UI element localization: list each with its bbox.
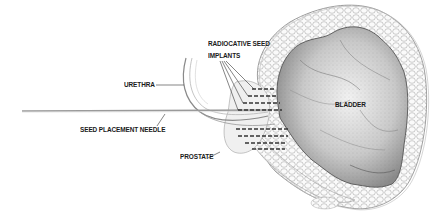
- label-radioactive-seed: RADIOCATIVE SEED: [208, 40, 270, 48]
- diagram-canvas: RADIOCATIVE SEED IMPLANTS URETHRA SEED P…: [0, 0, 434, 219]
- label-seed-placement-needle: SEED PLACEMENT NEEDLE: [80, 126, 165, 134]
- label-urethra: URETHRA: [124, 81, 155, 89]
- label-implants: IMPLANTS: [208, 52, 240, 60]
- label-prostate: PROSTATE: [180, 153, 213, 161]
- prostate-bladder-illustration: [0, 0, 434, 219]
- label-bladder: BLADDER: [335, 101, 366, 109]
